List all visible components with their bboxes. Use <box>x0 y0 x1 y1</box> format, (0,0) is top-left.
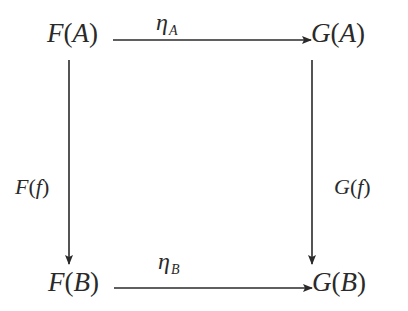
object-a: A <box>340 18 357 48</box>
paren-open: ( <box>331 18 340 48</box>
paren-open: ( <box>64 18 73 48</box>
eta-symbol: η <box>158 248 170 274</box>
paren-close: ) <box>42 174 49 199</box>
functor-f: F <box>47 18 64 48</box>
paren-close: ) <box>89 18 98 48</box>
node-g-b: G(B) <box>312 269 366 296</box>
functor-g: G <box>312 267 332 297</box>
paren-open: ( <box>65 267 74 297</box>
paren-open: ( <box>28 174 35 199</box>
label-f-of-f: F(f) <box>15 176 49 198</box>
functor-g: G <box>311 18 331 48</box>
node-g-a: G(A) <box>311 20 365 47</box>
object-b: B <box>341 267 358 297</box>
functor-g: G <box>334 174 350 199</box>
label-eta-b: ηB <box>158 249 179 273</box>
paren-close: ) <box>357 267 366 297</box>
eta-subscript-b: B <box>171 262 180 277</box>
functor-f: F <box>48 267 65 297</box>
object-b: B <box>74 267 91 297</box>
functor-f: F <box>15 174 28 199</box>
paren-close: ) <box>363 174 370 199</box>
paren-open: ( <box>332 267 341 297</box>
label-g-of-f: G(f) <box>334 176 371 198</box>
paren-close: ) <box>356 18 365 48</box>
label-eta-a: ηA <box>156 10 177 34</box>
node-f-b: F(B) <box>48 269 99 296</box>
paren-close: ) <box>90 267 99 297</box>
node-f-a: F(A) <box>47 20 98 47</box>
eta-subscript-a: A <box>169 23 178 38</box>
object-a: A <box>73 18 90 48</box>
eta-symbol: η <box>156 9 168 35</box>
